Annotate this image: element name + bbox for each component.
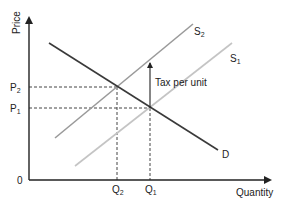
demand-label: D [222, 149, 229, 160]
supply-s2-label: S2 [194, 26, 205, 38]
supply-s1-label: S1 [230, 53, 241, 65]
x-axis-label: Quantity [236, 187, 273, 198]
y-axis-label: Price [11, 11, 22, 34]
tax-incidence-diagram: Price Quantity 0 P2 P1 Q2 Q1 S2 S1 D Tax… [0, 0, 289, 212]
quantity-label-q2: Q2 [112, 184, 124, 196]
guide-lines [29, 87, 150, 180]
demand-curve [49, 43, 218, 150]
quantity-label-q1: Q1 [145, 184, 157, 196]
origin-label: 0 [17, 175, 23, 186]
tax-per-unit-label: Tax per unit [155, 77, 207, 88]
supply-curve-s1 [75, 43, 232, 166]
price-label-p2: P2 [10, 82, 21, 94]
price-label-p1: P1 [10, 103, 21, 115]
